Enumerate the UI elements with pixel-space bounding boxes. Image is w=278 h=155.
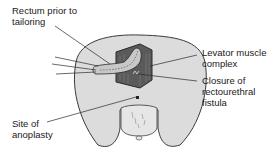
anoplasty-site [136,96,139,99]
scrotum-tip [136,136,142,140]
label-rectum-prior-to-tailoring: Rectum prior to tailoring [12,5,77,27]
label-site-of-anoplasty: Site of anoplasty [12,118,53,140]
scrotum [121,105,157,136]
label-levator-muscle-complex: Levator muscle complex [202,47,266,69]
label-closure-rectourethral-fistula: Closure of rectourethral fistula [202,75,255,108]
